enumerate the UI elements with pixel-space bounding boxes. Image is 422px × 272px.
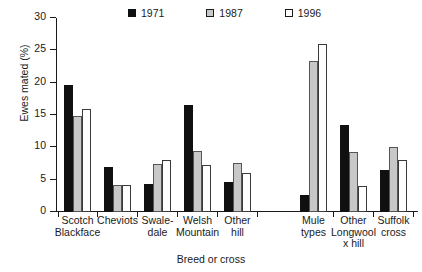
legend-swatch-1987 — [206, 9, 214, 17]
bar-group — [100, 18, 135, 212]
bar-1996-5 — [318, 44, 327, 212]
bar-group — [220, 18, 255, 212]
bar-1971-1 — [104, 167, 113, 212]
bar-1987-1 — [113, 185, 122, 212]
y-axis-tick-label: 20 — [34, 75, 46, 87]
legend-item-1987: 1987 — [206, 8, 242, 19]
bar-1996-0 — [82, 109, 91, 212]
bar-1996-4 — [242, 173, 251, 212]
legend-swatch-1996 — [285, 9, 293, 17]
bar-chart: 1971 1987 1996 Ewes mated (%) 0510152025… — [0, 0, 422, 272]
legend-label-1996: 1996 — [298, 8, 321, 19]
bar-1971-3 — [184, 105, 193, 212]
x-axis-category-label: Other hill — [210, 215, 265, 238]
x-axis-category-labels: Scotch BlackfaceCheviotsSwale- daleWelsh… — [56, 215, 418, 255]
bar-1971-4 — [224, 182, 233, 212]
bar-1987-2 — [153, 164, 162, 213]
y-axis-tick: 20 — [50, 82, 56, 83]
bar-group — [140, 18, 175, 212]
bar-1987-3 — [193, 151, 202, 212]
bar-1971-7 — [380, 170, 389, 212]
x-axis-title: Breed or cross — [0, 253, 422, 265]
y-axis-tick: 30 — [50, 17, 56, 18]
bar-1996-7 — [398, 160, 407, 212]
y-axis-tick: 5 — [50, 179, 56, 180]
y-axis-tick-label: 25 — [34, 42, 46, 54]
y-axis-tick: 0 — [50, 211, 56, 212]
y-axis-tick: 25 — [50, 49, 56, 50]
y-axis-tick: 15 — [50, 114, 56, 115]
y-axis-tick: 10 — [50, 146, 56, 147]
legend-label-1971: 1971 — [141, 8, 164, 19]
y-axis-tick-label: 30 — [34, 10, 46, 22]
legend-label-1987: 1987 — [219, 8, 242, 19]
bar-1996-6 — [358, 186, 367, 213]
y-axis-line — [56, 18, 57, 212]
legend-swatch-1971 — [128, 9, 136, 17]
y-axis-tick-label: 15 — [34, 107, 46, 119]
bar-1996-1 — [122, 185, 131, 212]
bar-1996-2 — [162, 160, 171, 212]
x-axis-category-label: Suffolk cross — [366, 215, 421, 238]
bar-1987-6 — [349, 152, 358, 212]
bar-1987-4 — [233, 163, 242, 212]
y-axis-tick-label: 10 — [34, 139, 46, 151]
y-axis-title: Ewes mated (%) — [18, 18, 30, 148]
plot-area: 051015202530 — [56, 18, 418, 212]
bar-1971-5 — [300, 195, 309, 212]
bar-group — [336, 18, 371, 212]
bar-1971-6 — [340, 125, 349, 212]
bar-1987-5 — [309, 61, 318, 212]
bar-1971-0 — [64, 85, 73, 212]
y-axis-tick-label: 0 — [40, 204, 46, 216]
bar-1971-2 — [144, 184, 153, 212]
bar-group — [296, 18, 331, 212]
bar-group — [376, 18, 411, 212]
legend-item-1971: 1971 — [128, 8, 164, 19]
y-axis-tick-label: 5 — [40, 172, 46, 184]
bar-1987-7 — [389, 147, 398, 212]
legend-item-1996: 1996 — [285, 8, 321, 19]
bar-group — [180, 18, 215, 212]
bar-1987-0 — [73, 116, 82, 212]
bar-group — [60, 18, 95, 212]
chart-legend: 1971 1987 1996 — [128, 8, 321, 19]
bar-1996-3 — [202, 165, 211, 212]
